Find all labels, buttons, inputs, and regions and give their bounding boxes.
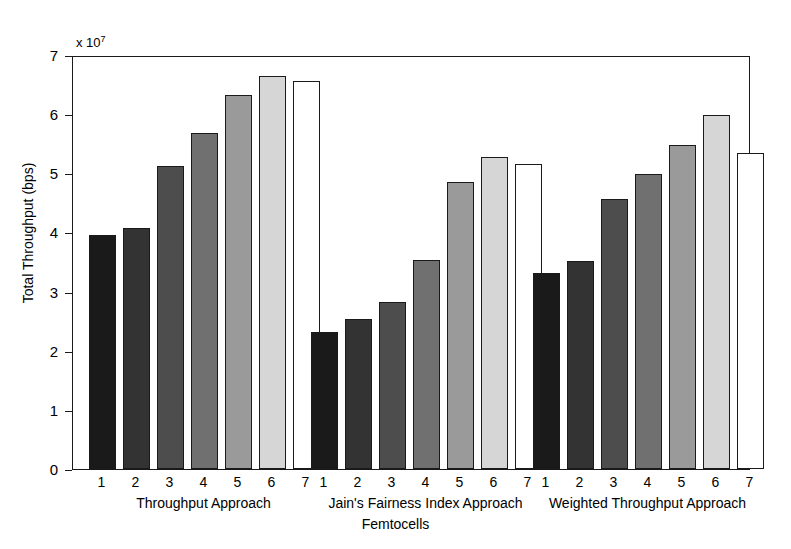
x-tick-label-g2-3: 3 [377, 474, 407, 490]
x-tick-label-g2-4: 4 [411, 474, 441, 490]
x-tick-label-g3-4: 4 [633, 474, 663, 490]
bar-g2-3 [379, 302, 406, 469]
plot-area [72, 56, 750, 470]
x-tick-label-g2-5: 5 [445, 474, 475, 490]
x-tick-label-g2-2: 2 [343, 474, 373, 490]
y-tick-label-1: 1 [18, 403, 58, 418]
group-label-3: Weighted Throughput Approach [472, 495, 791, 511]
x-tick-label-g2-6: 6 [479, 474, 509, 490]
bar-g1-5 [225, 95, 252, 469]
y-tick-1 [65, 411, 72, 412]
chart-figure: x 107 Total Throughput (bps) 01234567 12… [0, 0, 791, 549]
x-tick-label-g3-6: 6 [701, 474, 731, 490]
x-tick-label-g1-6: 6 [257, 474, 287, 490]
y-tick-label-6: 6 [18, 107, 58, 122]
y-tick-label-4: 4 [18, 225, 58, 240]
x-axis-title: Femtocells [0, 516, 791, 532]
y-axis-exponent: x 107 [76, 33, 106, 49]
bar-g3-7 [737, 153, 764, 469]
bar-g1-2 [123, 228, 150, 469]
x-tick-label-g1-1: 1 [87, 474, 117, 490]
x-tick-label-g1-5: 5 [223, 474, 253, 490]
bar-g1-1 [89, 235, 116, 469]
x-tick-label-g3-7: 7 [735, 474, 765, 490]
y-tick-6 [65, 115, 72, 116]
y-tick-3 [65, 293, 72, 294]
bar-g1-3 [157, 166, 184, 469]
x-tick-label-g1-4: 4 [189, 474, 219, 490]
bar-g1-6 [259, 76, 286, 469]
y-tick-0 [65, 470, 72, 471]
y-tick-7 [65, 56, 72, 57]
x-tick-label-g3-5: 5 [667, 474, 697, 490]
x-tick-label-g2-1: 1 [309, 474, 339, 490]
y-tick-2 [65, 352, 72, 353]
x-tick-label-g3-3: 3 [599, 474, 629, 490]
bar-g3-6 [703, 115, 730, 469]
bar-g2-1 [311, 332, 338, 469]
bar-g3-2 [567, 261, 594, 469]
y-axis-exponent-power: 7 [101, 34, 106, 44]
x-tick-label-g1-2: 2 [121, 474, 151, 490]
y-tick-label-2: 2 [18, 344, 58, 359]
bar-g3-1 [533, 273, 560, 469]
y-tick-5 [65, 174, 72, 175]
y-tick-label-7: 7 [18, 48, 58, 63]
x-tick-label-g3-2: 2 [565, 474, 595, 490]
bar-g3-3 [601, 199, 628, 469]
bar-g1-4 [191, 133, 218, 469]
x-tick-label-g3-1: 1 [531, 474, 561, 490]
y-tick-label-0: 0 [18, 462, 58, 477]
bar-g2-5 [447, 182, 474, 469]
y-axis-exponent-base: x 10 [76, 35, 101, 50]
y-tick-label-3: 3 [18, 285, 58, 300]
y-tick-4 [65, 233, 72, 234]
bar-g3-4 [635, 174, 662, 469]
y-tick-label-5: 5 [18, 166, 58, 181]
x-tick-label-g1-3: 3 [155, 474, 185, 490]
bars-layer [73, 57, 749, 469]
bar-g3-5 [669, 145, 696, 469]
bar-g2-4 [413, 260, 440, 469]
bar-g2-6 [481, 157, 508, 469]
bar-g2-2 [345, 319, 372, 469]
